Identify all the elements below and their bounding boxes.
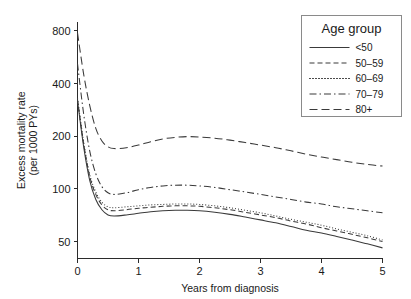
excess-mortality-chart: 50100200400800 012345 Years from diagnos… [0, 0, 411, 299]
y-tick-label: 800 [52, 25, 70, 37]
series-line-60-69 [78, 98, 383, 240]
y-tick-label: 200 [52, 130, 70, 142]
legend: Age group <5050–5960–6970–7980+ [302, 16, 402, 117]
legend-label: 70–79 [356, 89, 384, 100]
series-line-50-59 [78, 99, 383, 241]
y-axis-group: 50100200400800 [52, 22, 77, 259]
legend-label: 60–69 [356, 73, 384, 84]
legend-title: Age group [322, 21, 382, 36]
legend-label: 80+ [356, 104, 373, 115]
y-tick-label: 100 [52, 183, 70, 195]
x-tick-label: 3 [257, 265, 263, 277]
legend-label: <50 [356, 42, 373, 53]
x-tick-label: 5 [379, 265, 385, 277]
y-axis-title-line1: Excess mortality rate [15, 91, 27, 189]
x-axis-group: 012345 [74, 259, 385, 277]
x-tick-group: 012345 [74, 259, 385, 277]
x-tick-label: 2 [196, 265, 202, 277]
y-tick-group: 50100200400800 [52, 25, 77, 248]
series-line--50 [78, 101, 383, 248]
x-tick-label: 1 [135, 265, 141, 277]
legend-label: 50–59 [356, 58, 384, 69]
x-tick-label: 4 [318, 265, 324, 277]
y-tick-label: 50 [58, 236, 70, 248]
y-axis-title-line2: (per 1000 PYs) [27, 105, 39, 176]
y-tick-label: 400 [52, 78, 70, 90]
x-tick-label: 0 [74, 265, 80, 277]
chart-canvas: 50100200400800 012345 Years from diagnos… [0, 0, 411, 299]
x-axis-title: Years from diagnosis [181, 282, 279, 294]
